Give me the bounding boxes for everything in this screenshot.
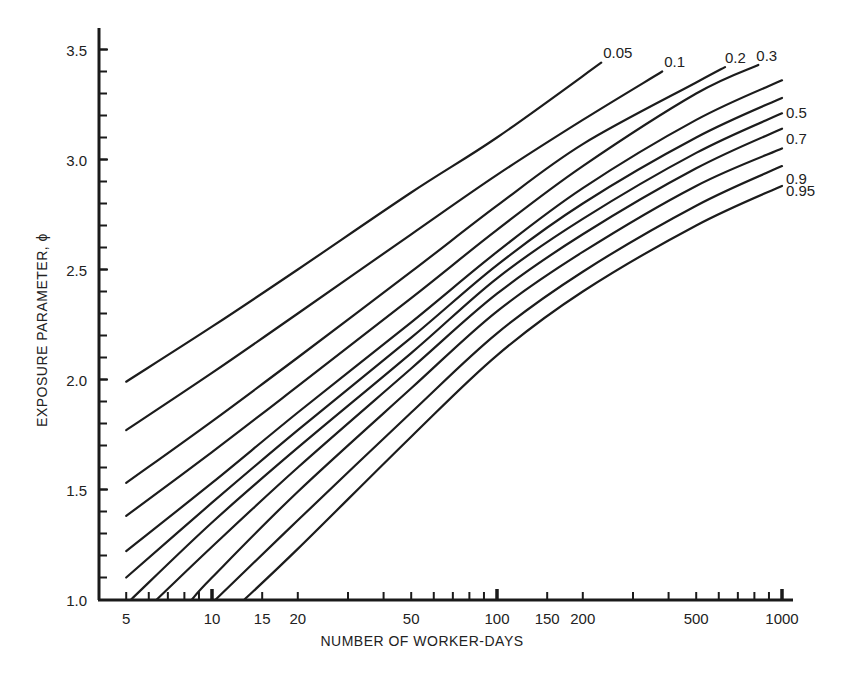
x-tick-label: 5	[122, 610, 130, 627]
curve-label-0-1: 0.1	[664, 53, 685, 70]
y-tick-label: 1.0	[66, 592, 87, 609]
x-tick-label: 10	[204, 610, 221, 627]
curve-0-6	[131, 113, 782, 599]
y-axis-title: EXPOSURE PARAMETER, ϕ	[34, 233, 50, 427]
curve-label-0-5: 0.5	[786, 104, 807, 121]
curve-label-0-95: 0.95	[786, 182, 815, 199]
curve-0-3	[126, 65, 758, 516]
curve-0-7	[157, 129, 782, 600]
exposure-parameter-chart: 1.01.52.02.53.03.5 510152050100150200500…	[0, 0, 849, 685]
curve-0-5	[126, 98, 782, 578]
x-tick-label: 500	[684, 610, 709, 627]
curves	[126, 63, 782, 600]
x-tick-label: 15	[254, 610, 271, 627]
curve-label-0-3: 0.3	[756, 47, 777, 64]
y-tick-label: 2.0	[66, 372, 87, 389]
curve-0-1	[126, 72, 662, 431]
y-tick-label: 2.5	[66, 262, 87, 279]
x-tick-label: 50	[403, 610, 420, 627]
x-tick-label: 200	[570, 610, 595, 627]
x-tick-label: 1000	[765, 610, 798, 627]
y-tick-label: 1.5	[66, 482, 87, 499]
y-tick-label: 3.0	[66, 152, 87, 169]
y-axis-ticks: 1.01.52.02.53.03.5	[66, 42, 108, 609]
curve-label-0-7: 0.7	[786, 130, 807, 147]
axes	[98, 28, 793, 600]
x-tick-label: 100	[484, 610, 509, 627]
curve-0-8	[192, 149, 782, 600]
y-tick-label: 3.5	[66, 42, 87, 59]
x-tick-label: 150	[535, 610, 560, 627]
curve-labels: 0.050.10.20.30.50.70.90.95	[603, 44, 815, 199]
x-axis-ticks: 5101520501001502005001000	[122, 589, 799, 627]
x-axis-title: NUMBER OF WORKER-DAYS	[320, 633, 523, 649]
chart-container: 1.01.52.02.53.03.5 510152050100150200500…	[0, 0, 849, 685]
curve-0-2	[126, 67, 725, 483]
curve-label-0-05: 0.05	[603, 44, 632, 61]
x-tick-label: 20	[289, 610, 306, 627]
curve-label-0-2: 0.2	[725, 49, 746, 66]
curve-0-95	[245, 186, 783, 600]
